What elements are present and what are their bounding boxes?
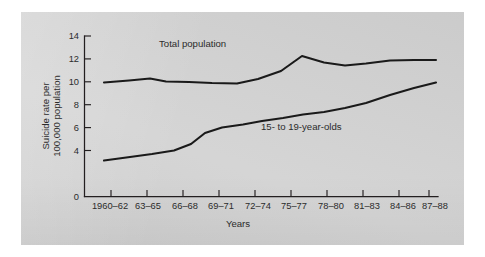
figure-canvas: 14 12 10 8 6 4 0 Suicide rate per 100,00…	[0, 0, 485, 257]
series-annotation-total-population: Total population	[159, 38, 226, 49]
y-tick-label-12: 12	[69, 54, 79, 64]
x-tick-label-3: 69–71	[208, 201, 234, 211]
x-tick-label-4: 72–74	[245, 201, 271, 211]
series-annotation-teen-group: 15- to 19-year-olds	[261, 121, 342, 132]
x-tick-label-9: 87–88	[422, 201, 448, 211]
y-axis-title: Suicide rate per 100,000 population	[40, 75, 62, 157]
x-tick-label-0: 1960–62	[92, 201, 128, 211]
y-tick-label-8: 8	[74, 100, 79, 110]
x-axis-title: Years	[226, 218, 250, 229]
series-line-total-population	[104, 56, 436, 84]
x-tick-marks	[111, 190, 429, 197]
x-tick-label-5: 75–77	[281, 201, 307, 211]
y-tick-label-0: 0	[74, 192, 79, 202]
y-tick-labels: 14 12 10 8 6 4 0	[69, 31, 79, 202]
y-axis-title-line2: 100,000 population	[51, 75, 62, 157]
y-tick-marks	[85, 36, 92, 151]
y-tick-label-10: 10	[69, 77, 79, 87]
y-tick-label-4: 4	[74, 146, 79, 156]
x-tick-label-8: 84–86	[390, 201, 416, 211]
x-tick-labels: 1960–62 63–65 66–68 69–71 72–74 75–77 78…	[92, 201, 448, 211]
y-tick-label-14: 14	[69, 31, 79, 41]
line-chart: 14 12 10 8 6 4 0 Suicide rate per 100,00…	[0, 0, 485, 257]
x-tick-label-1: 63–65	[135, 201, 161, 211]
x-tick-label-2: 66–68	[172, 201, 198, 211]
y-tick-label-6: 6	[74, 123, 79, 133]
x-tick-label-7: 81–83	[354, 201, 380, 211]
x-tick-label-6: 78–80	[318, 201, 344, 211]
y-axis-title-line1: Suicide rate per	[40, 82, 51, 150]
